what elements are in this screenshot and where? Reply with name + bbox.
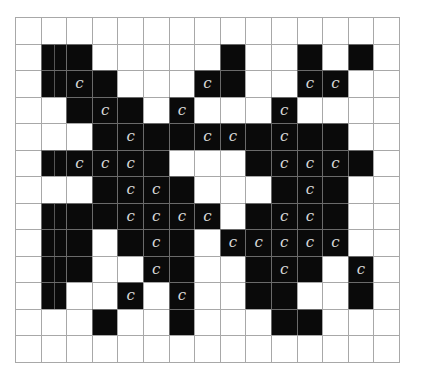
filled-cell — [41, 256, 67, 283]
empty-cell — [245, 309, 271, 336]
empty-cell — [66, 335, 92, 362]
empty-cell — [348, 203, 374, 230]
empty-cell — [348, 176, 374, 203]
empty-cell — [271, 17, 297, 44]
empty-cell — [271, 335, 297, 362]
filled-cell — [245, 123, 271, 150]
filled-cell — [169, 256, 195, 283]
empty-cell — [322, 44, 348, 71]
filled-cell — [66, 97, 92, 124]
cell-label: c — [203, 76, 211, 91]
empty-cell — [373, 256, 399, 283]
empty-cell — [245, 97, 271, 124]
empty-cell — [66, 282, 92, 309]
empty-cell — [194, 97, 220, 124]
cell-label: c — [280, 235, 288, 250]
filled-cell — [348, 282, 374, 309]
empty-cell — [245, 176, 271, 203]
cell-grid: ccccccccccccccccccccccccccccccccccccc — [15, 17, 400, 363]
empty-cell — [15, 203, 41, 230]
empty-cell — [117, 256, 143, 283]
filled-cell — [245, 282, 271, 309]
cell-label: c — [178, 103, 186, 118]
empty-cell — [169, 150, 195, 177]
filled-cell — [92, 176, 118, 203]
empty-cell — [194, 150, 220, 177]
empty-cell — [41, 335, 67, 362]
labeled-filled-cell: c — [194, 203, 220, 230]
labeled-filled-cell: c — [194, 70, 220, 97]
filled-cell — [41, 150, 67, 177]
empty-cell — [271, 44, 297, 71]
empty-cell — [348, 70, 374, 97]
empty-cell — [194, 335, 220, 362]
empty-cell — [322, 256, 348, 283]
empty-cell — [220, 97, 246, 124]
cell-label: c — [280, 209, 288, 224]
cell-label: c — [152, 182, 160, 197]
empty-cell — [373, 176, 399, 203]
empty-cell — [348, 309, 374, 336]
filled-cell — [220, 70, 246, 97]
labeled-filled-cell: c — [322, 229, 348, 256]
empty-cell — [41, 97, 67, 124]
empty-cell — [322, 309, 348, 336]
empty-cell — [41, 123, 67, 150]
empty-cell — [41, 17, 67, 44]
empty-cell — [41, 176, 67, 203]
empty-cell — [297, 282, 323, 309]
empty-cell — [92, 335, 118, 362]
labeled-filled-cell: c — [66, 150, 92, 177]
empty-cell — [15, 97, 41, 124]
empty-cell — [348, 97, 374, 124]
cell-label: c — [280, 103, 288, 118]
filled-cell — [41, 44, 67, 71]
cell-label: c — [229, 129, 237, 144]
empty-cell — [220, 256, 246, 283]
empty-cell — [373, 97, 399, 124]
empty-cell — [194, 309, 220, 336]
labeled-filled-cell: c — [220, 123, 246, 150]
empty-cell — [348, 123, 374, 150]
filled-cell — [41, 203, 67, 230]
filled-cell — [41, 70, 67, 97]
empty-cell — [15, 282, 41, 309]
empty-cell — [194, 282, 220, 309]
filled-cell — [41, 282, 67, 309]
empty-cell — [92, 17, 118, 44]
empty-cell — [117, 70, 143, 97]
empty-cell — [15, 123, 41, 150]
empty-cell — [220, 176, 246, 203]
labeled-filled-cell: c — [66, 70, 92, 97]
empty-cell — [373, 150, 399, 177]
empty-cell — [322, 282, 348, 309]
labeled-filled-cell: c — [297, 229, 323, 256]
empty-cell — [143, 44, 169, 71]
empty-cell — [66, 123, 92, 150]
empty-cell — [220, 150, 246, 177]
labeled-filled-cell: c — [117, 203, 143, 230]
filled-cell — [66, 229, 92, 256]
cell-label: c — [203, 129, 211, 144]
empty-cell — [322, 17, 348, 44]
cell-label: c — [203, 209, 211, 224]
empty-cell — [15, 309, 41, 336]
cell-label: c — [126, 129, 134, 144]
cell-label: c — [152, 262, 160, 277]
cell-label: c — [126, 182, 134, 197]
cell-label: c — [75, 156, 83, 171]
empty-cell — [194, 176, 220, 203]
labeled-filled-cell: c — [297, 203, 323, 230]
labeled-filled-cell: c — [117, 282, 143, 309]
filled-cell — [92, 203, 118, 230]
labeled-filled-cell: c — [220, 229, 246, 256]
cell-label: c — [331, 76, 339, 91]
filled-cell — [271, 176, 297, 203]
filled-cell — [220, 44, 246, 71]
filled-cell — [297, 309, 323, 336]
labeled-filled-cell: c — [92, 97, 118, 124]
filled-cell — [169, 309, 195, 336]
filled-cell — [117, 97, 143, 124]
empty-cell — [117, 309, 143, 336]
filled-cell — [92, 70, 118, 97]
